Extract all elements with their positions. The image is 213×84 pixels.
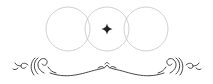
ornament-divider	[0, 0, 213, 84]
circle-left	[46, 7, 90, 51]
circle-right	[124, 7, 168, 51]
star-icon	[102, 24, 113, 35]
flourish-scroll	[13, 58, 201, 76]
